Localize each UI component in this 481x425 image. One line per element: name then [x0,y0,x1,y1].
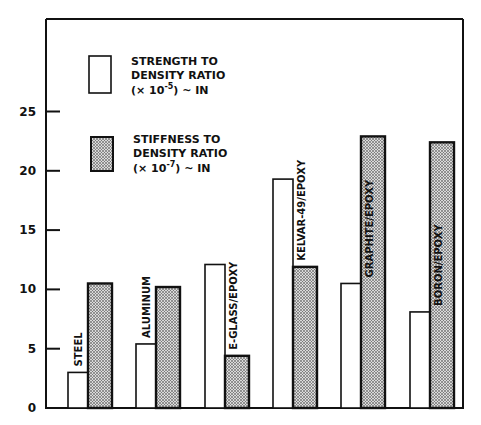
legend-strength-line1: STRENGTH TO [131,55,218,68]
bar-chart: 0510152025 STEELALUMINUME-GLASS/EPOXYKEL… [0,0,481,425]
legend-strength-line3: (× 10-5) ~ IN [131,82,208,97]
category-label: GRAPHITE/EPOXY [364,179,375,277]
category-label: BORON/EPOXY [433,224,444,306]
legend-stiffness-line3: (× 10-7) ~ IN [133,160,210,175]
legend-item-strength: STRENGTH TO DENSITY RATIO (× 10-5) ~ IN [89,55,225,97]
bar-stiffness [156,287,180,408]
y-tick-label: 5 [28,342,36,356]
bar-stiffness [225,356,249,408]
y-tick-label: 20 [19,164,36,178]
legend-item-stiffness: STIFFNESS TO DENSITY RATIO (× 10-7) ~ IN [91,133,227,175]
bars [68,136,454,408]
category-label: KELVAR-49/EPOXY [296,159,307,261]
bar-strength [136,344,156,408]
legend-stiffness-line2: DENSITY RATIO [133,147,227,160]
bar-stiffness [293,267,317,408]
y-tick-label: 0 [28,401,36,415]
category-labels: STEELALUMINUME-GLASS/EPOXYKELVAR-49/EPOX… [73,159,444,366]
legend-strength-line2: DENSITY RATIO [131,69,225,82]
legend-swatch-stippled [91,137,113,171]
category-label: E-GLASS/EPOXY [228,261,239,350]
y-axis-ticks: 0510152025 [19,105,60,416]
bar-strength [341,283,361,408]
bar-strength [273,179,293,408]
bar-strength [410,312,430,408]
category-label: STEEL [73,332,84,367]
y-tick-label: 15 [19,223,36,237]
bar-strength [68,372,88,408]
category-label: ALUMINUM [141,276,152,338]
bar-strength [205,264,225,408]
y-tick-label: 10 [19,282,36,296]
legend-stiffness-line1: STIFFNESS TO [133,133,220,146]
legend: STRENGTH TO DENSITY RATIO (× 10-5) ~ IN … [89,55,227,175]
legend-swatch-white [89,56,111,93]
y-tick-label: 25 [19,105,36,119]
bar-stiffness [88,283,112,408]
